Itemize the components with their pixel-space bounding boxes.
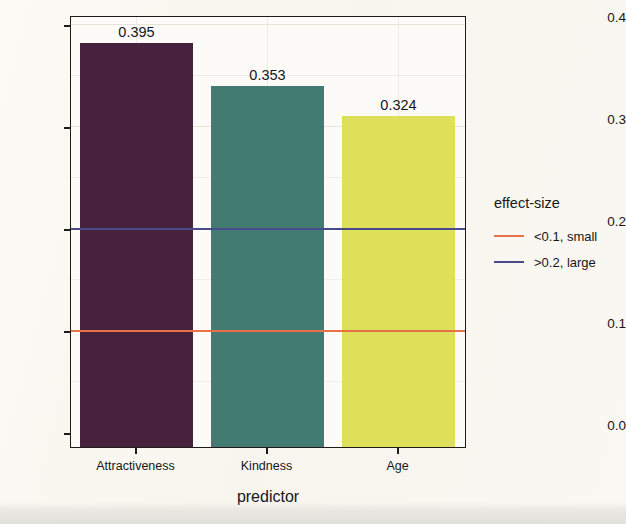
chart-page: 0.0 0.1 0.2 0.3 0.4 abs(std.coefs) (0, 0, 626, 524)
y-tick-label: 0.4 (566, 10, 626, 25)
y-tick-label: 0.0 (566, 418, 626, 433)
bar-value-label-age: 0.324 (342, 97, 455, 113)
legend-item-small[interactable]: <0.1, small (494, 223, 622, 249)
x-tick-mark (135, 448, 137, 454)
x-tick-label-attractiveness: Attractiveness (70, 459, 201, 473)
legend-title: effect-size (494, 195, 622, 211)
x-axis-title: predictor (70, 488, 466, 506)
bar-attractiveness[interactable] (80, 43, 193, 447)
bar-age[interactable] (342, 116, 455, 447)
legend-key-line-icon (494, 235, 524, 238)
x-tick-label-kindness: Kindness (201, 459, 332, 473)
x-tick-mark (266, 448, 268, 454)
reference-line-small (71, 330, 465, 332)
y-tick-label: 0.3 (566, 112, 626, 127)
legend: effect-size <0.1, small >0.2, large (494, 195, 622, 275)
legend-item-large[interactable]: >0.2, large (494, 249, 622, 275)
plot-panel: 0.395 0.353 0.324 (70, 16, 466, 448)
y-tick-label: 0.1 (566, 316, 626, 331)
bar-kindness[interactable] (211, 86, 324, 447)
x-tick-mark (397, 448, 399, 454)
legend-key-line-icon (494, 261, 524, 264)
x-tick-label-age: Age (332, 459, 463, 473)
legend-label-large: >0.2, large (534, 255, 596, 270)
legend-label-small: <0.1, small (534, 229, 597, 244)
bar-value-label-kindness: 0.353 (211, 67, 324, 83)
reference-line-large (71, 228, 465, 230)
bar-value-label-attractiveness: 0.395 (80, 24, 193, 40)
